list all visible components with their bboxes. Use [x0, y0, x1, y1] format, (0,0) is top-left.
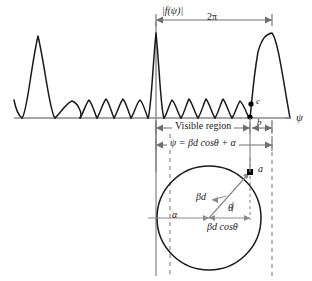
magnitude-axis-label: |f(ψ)| [162, 6, 183, 16]
visible-region-label: Visible region [172, 121, 234, 131]
b-span-arrow [252, 122, 272, 134]
theta-label: θ [228, 203, 233, 213]
marker-point-c [248, 101, 253, 106]
psi-axis-label: ψ [296, 112, 303, 123]
marker-label-c: c [256, 97, 260, 106]
circle-point-a-label: a [258, 164, 263, 174]
array-factor-figure: |f(ψ)| 2π c b ψ Visible region ψ = βd co… [0, 0, 312, 281]
alpha-label: α [172, 210, 177, 220]
array-factor-curve [14, 33, 290, 118]
beta-d-label: βd [196, 192, 206, 202]
psi-equation-label: ψ = βd cosθ + α [167, 138, 239, 148]
marker-label-b: b [257, 118, 262, 127]
beta-d-cos-theta-label: βd cosθ [207, 222, 238, 232]
figure-canvas [0, 0, 312, 281]
period-label: 2π [207, 12, 217, 22]
